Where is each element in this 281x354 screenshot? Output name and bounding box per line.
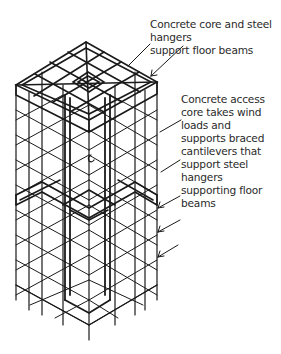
leader-arrows [128, 44, 183, 257]
floor-bracing [16, 95, 157, 325]
top-annotation-label: Concrete core and steel hangers support … [150, 18, 281, 57]
core-annotation-label: Concrete access core takes wind loads an… [181, 93, 281, 210]
roof-truss [16, 42, 157, 132]
base-outline [16, 285, 157, 325]
cantilever-truss [16, 180, 157, 220]
